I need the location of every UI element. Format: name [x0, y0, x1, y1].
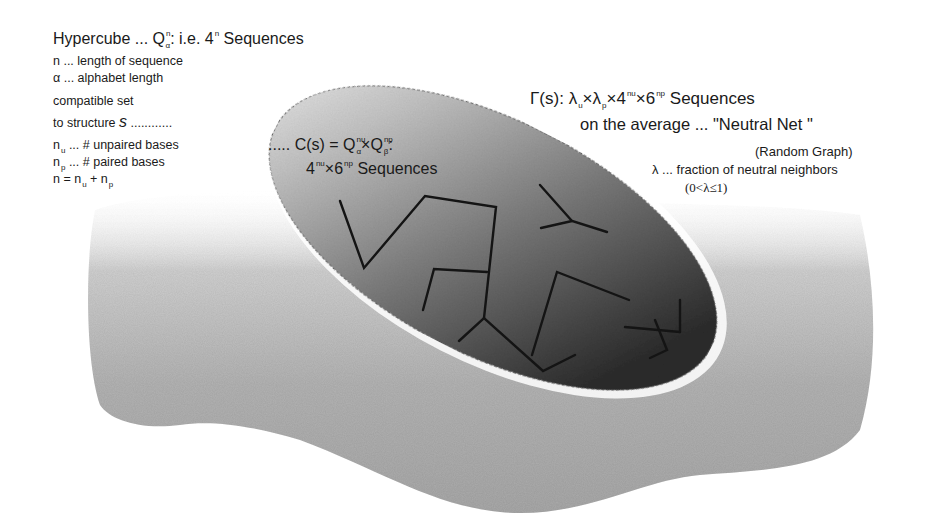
lambda-definition: λ ... fraction of neutral neighbors [652, 163, 838, 176]
definition-sum: n = nu + np [53, 173, 113, 189]
gamma-times3: ×6 [636, 89, 655, 108]
gamma-sup1: nu [627, 89, 636, 98]
compatible-set-formula: ..... C(s) = Qnuα×Qnpβ: [268, 136, 393, 156]
neutral-net-formula: Γ(s): λu×λp×4nu×6np Sequences [530, 90, 755, 110]
compatible-set-line2: to structure s ............ [53, 114, 172, 130]
cs-colon: : [388, 136, 392, 153]
neutral-net-average: on the average ... "Neutral Net " [580, 116, 813, 133]
nu-symbol: n [53, 138, 60, 152]
gamma-times2: ×4 [606, 89, 625, 108]
random-graph-label: (Random Graph) [755, 145, 853, 158]
hypercube-tail: Sequences [219, 30, 304, 47]
structure-var: s [119, 113, 127, 130]
cs-four: 4 [306, 160, 315, 177]
gamma-tail: Sequences [665, 89, 755, 108]
compatible-set-line1: compatible set [53, 95, 134, 108]
gamma-times1: ×λ [583, 89, 601, 108]
structure-dots: ............ [127, 116, 172, 130]
structure-label: to structure [53, 116, 119, 130]
definition-unpaired: nu ... # unpaired bases [53, 139, 179, 155]
np-text: ... # paired bases [65, 155, 164, 169]
definition-paired: np ... # paired bases [53, 156, 165, 172]
sum-lhs: n = n [53, 172, 81, 186]
cs-four-sup: nu [316, 159, 325, 168]
gamma-sup2: np [656, 89, 665, 98]
np-symbol: n [53, 155, 60, 169]
lambda-range: (0<λ≤1) [685, 181, 727, 194]
hypercube-prefix: Hypercube ... Q [53, 30, 165, 47]
gamma-prefix: Γ(s): λ [530, 89, 577, 108]
cs-times: ×Q [361, 136, 383, 153]
nu-text: ... # unpaired bases [65, 138, 178, 152]
sum-sub2: p [109, 180, 113, 189]
cs-six: ×6 [325, 160, 343, 177]
compatible-set-count: 4nu×6np Sequences [306, 160, 437, 177]
definition-n: n ... length of sequence [53, 55, 183, 68]
cs-prefix: ..... C(s) = Q [268, 136, 356, 153]
cs-six-sup: np [344, 159, 353, 168]
hypercube-title: Hypercube ... Qnα: i.e. 4n Sequences [53, 30, 304, 50]
definition-alpha: α ... alphabet length [53, 72, 163, 85]
hypercube-suffix: : i.e. 4 [170, 30, 214, 47]
cs-tail: Sequences [353, 160, 438, 177]
sum-plus: + n [87, 172, 108, 186]
